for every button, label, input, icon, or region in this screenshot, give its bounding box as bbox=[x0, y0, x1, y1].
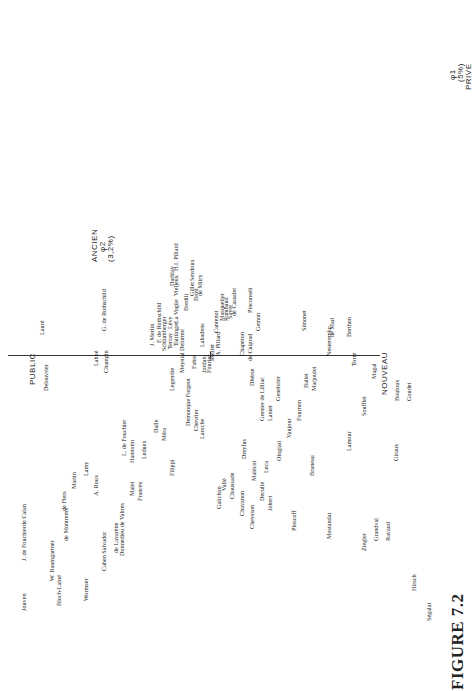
name-label: Malet bbox=[128, 482, 135, 496]
name-label: Grenier de Lilliac bbox=[258, 377, 265, 421]
name-label: Legendre bbox=[168, 368, 175, 391]
name-label: Berthon bbox=[345, 317, 352, 337]
name-label: Grandval bbox=[372, 518, 379, 541]
name-label: de Montremy bbox=[62, 507, 69, 541]
name-label: Lanier bbox=[266, 405, 273, 421]
name-label: de Calan bbox=[20, 504, 27, 526]
name-label: Jouven bbox=[20, 593, 27, 611]
name-label: Chaperon bbox=[238, 332, 245, 356]
axis-top-pct: (3,2%) bbox=[106, 235, 115, 262]
name-label: Bredili bbox=[182, 294, 189, 311]
name-label: Méra bbox=[160, 428, 167, 441]
name-label: Delorme bbox=[178, 329, 185, 351]
name-label: Labbé bbox=[92, 351, 99, 366]
name-label: Giraux bbox=[392, 444, 399, 461]
name-label: J. Merlin bbox=[148, 324, 155, 346]
name-label: W. Baumgartner bbox=[48, 540, 55, 581]
name-label: Francès bbox=[136, 482, 143, 501]
name-label: Vaujour bbox=[285, 418, 292, 438]
name-label: Champin bbox=[102, 350, 109, 373]
name-label: Lamour bbox=[345, 431, 352, 451]
name-label: Ballet bbox=[302, 373, 309, 388]
name-label: Meynial bbox=[178, 352, 185, 373]
name-label: Ologiati bbox=[275, 441, 282, 461]
name-label: de Cuiprad bbox=[246, 334, 253, 361]
name-label: Ziegler bbox=[360, 533, 367, 551]
name-label: Magal bbox=[370, 363, 377, 379]
name-label: Hannotin bbox=[128, 440, 135, 463]
name-label: J. de Fouchier bbox=[20, 526, 27, 561]
name-label: Malécot bbox=[250, 461, 257, 481]
name-label: Martin bbox=[70, 472, 77, 489]
name-label: Pinconseli bbox=[246, 287, 253, 313]
name-label: Gemon bbox=[254, 313, 261, 331]
name-label: Bloch-Lainé bbox=[55, 575, 62, 606]
name-label: L. de Fouchier bbox=[120, 420, 127, 456]
name-label: Lauré bbox=[38, 321, 45, 335]
name-label: Bouloux bbox=[393, 380, 400, 401]
name-label: Mostandat bbox=[325, 513, 332, 539]
name-label: La Vogüe bbox=[172, 299, 179, 323]
name-label: Bruneau bbox=[308, 455, 315, 476]
name-label: Leduex bbox=[140, 440, 147, 459]
name-label: Lamy bbox=[82, 462, 89, 476]
name-label: de Cassalet bbox=[230, 288, 237, 316]
name-label: H.I. Pillard bbox=[172, 243, 179, 271]
name-label: Ségalat bbox=[425, 603, 432, 621]
name-label: Demonque Forgeot bbox=[184, 378, 191, 426]
name-label: Chavanon bbox=[238, 491, 245, 516]
name-label: Cheysson bbox=[248, 505, 255, 529]
name-label: Goudet bbox=[405, 383, 412, 401]
axis-left-label: PUBLIC bbox=[28, 353, 37, 385]
name-label: Fournon bbox=[295, 400, 302, 421]
name-label: Chaussade bbox=[228, 473, 235, 499]
name-label: Simonet bbox=[300, 310, 307, 331]
name-label: Dreyfus bbox=[240, 439, 247, 459]
name-label: Donnedieu de Vabres bbox=[118, 503, 125, 556]
name-label: Filippi bbox=[168, 459, 175, 476]
name-label: Genebrier bbox=[274, 376, 281, 401]
name-label: Vallé bbox=[220, 478, 227, 491]
name-label: Dalle bbox=[152, 420, 159, 433]
name-label: Delouvrier bbox=[42, 364, 49, 391]
name-label: Deculle bbox=[258, 482, 265, 501]
figure-caption: FIGURE 7.2 bbox=[448, 593, 468, 690]
name-label: Laroche bbox=[198, 419, 205, 439]
axis-prive-label: PRIVE bbox=[464, 63, 473, 90]
name-label: Nesteremko bbox=[325, 326, 332, 356]
name-label: Cahen Salvador bbox=[100, 532, 107, 571]
name-label: Leca bbox=[262, 461, 269, 473]
name-label: Wormser bbox=[82, 578, 89, 601]
name-label: A. Roux bbox=[92, 475, 99, 496]
name-label: Seydoux bbox=[188, 259, 195, 281]
name-label: Jobert bbox=[266, 496, 273, 511]
name-label: Ravaud bbox=[384, 522, 391, 541]
name-label: Dhérse bbox=[248, 368, 255, 386]
name-label: Ploscoff bbox=[290, 510, 297, 531]
name-label: Hirsch bbox=[410, 575, 417, 592]
name-label: Marjoulet bbox=[310, 367, 317, 391]
name-label: Jordan bbox=[200, 357, 207, 374]
name-label: de Mitry bbox=[196, 275, 203, 296]
name-label: G. de Rothschild bbox=[100, 289, 107, 331]
name-label: A. Pillard bbox=[214, 332, 221, 356]
name-label: Soufflet bbox=[360, 396, 367, 416]
axis-right-label: NOUVEAU bbox=[380, 352, 389, 395]
name-label: Labadens bbox=[198, 323, 205, 347]
name-label: Fabre bbox=[190, 355, 197, 369]
name-label: Torre bbox=[350, 353, 357, 366]
